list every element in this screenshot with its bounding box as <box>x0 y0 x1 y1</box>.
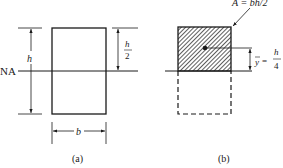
neutral-axis-label: NA <box>0 65 16 77</box>
figure-a: NA h h 2 b (a) <box>0 28 138 165</box>
area-label: A = bh/2 <box>231 0 267 8</box>
b-label: b <box>76 126 81 137</box>
area-leader-arrow <box>233 8 250 26</box>
half-h-denominator: 2 <box>125 51 130 61</box>
diagram-canvas: NA h h 2 b (a) y = h 4 A = b <box>0 0 283 168</box>
y-bar-denominator: 4 <box>274 61 279 71</box>
dashed-lower-half <box>178 71 231 114</box>
y-bar-numerator: h <box>274 47 279 57</box>
figure-a-caption: (a) <box>72 153 83 165</box>
half-h-numerator: h <box>125 39 130 49</box>
y-bar-equals: = <box>262 56 267 66</box>
y-bar-symbol: y <box>254 57 259 67</box>
h-label: h <box>27 53 32 64</box>
figure-b-caption: (b) <box>218 153 230 165</box>
figure-b: y = h 4 A = bh/2 (b) <box>165 0 281 165</box>
